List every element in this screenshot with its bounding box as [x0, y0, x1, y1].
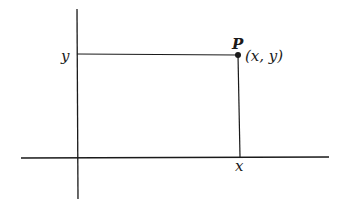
y-axis — [77, 9, 78, 199]
point-p-label: P — [231, 35, 244, 53]
coordinate-diagram: P (x, y) y x — [0, 0, 345, 209]
x-axis — [21, 157, 329, 158]
x-tick-label: x — [235, 157, 244, 175]
point-coordinates-label: (x, y) — [245, 47, 283, 65]
vertical-projection-line — [238, 55, 240, 157]
y-tick-label: y — [60, 47, 70, 65]
horizontal-projection-line — [77, 54, 238, 55]
